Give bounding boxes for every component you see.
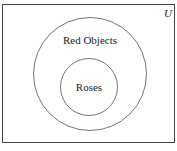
roses-label: Roses [76, 81, 102, 93]
universe-label: U [164, 7, 173, 19]
universe-rectangle [3, 5, 175, 143]
red-objects-label: Red Objects [63, 34, 117, 46]
venn-diagram: U Red Objects Roses [0, 0, 177, 151]
